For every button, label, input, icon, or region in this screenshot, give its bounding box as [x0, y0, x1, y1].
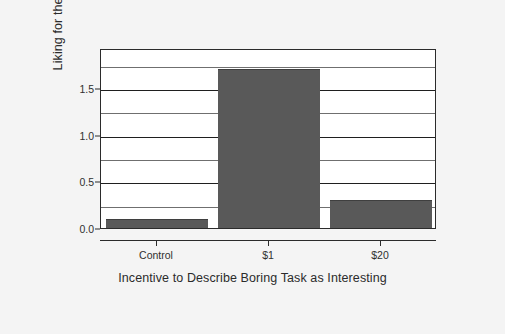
chart-figure: Liking for the Tasks 0.00.51.01.5 Contro… — [0, 0, 505, 334]
x-tick-label: $20 — [371, 249, 389, 261]
x-tick-mark — [268, 241, 269, 246]
y-tick-mark — [95, 89, 100, 90]
x-tick-label: $1 — [262, 249, 274, 261]
y-tick-mark — [95, 135, 100, 136]
y-tick-label: 1.0 — [60, 130, 94, 142]
y-tick-label: 0.5 — [60, 176, 94, 188]
bar — [330, 200, 431, 228]
x-axis-title: Incentive to Describe Boring Task as Int… — [0, 271, 505, 285]
plot-inner — [101, 50, 435, 228]
bar — [218, 69, 319, 228]
x-tick-mark — [380, 241, 381, 246]
y-tick-label: 1.5 — [60, 83, 94, 95]
y-tick-mark — [95, 182, 100, 183]
plot-area — [100, 49, 436, 229]
gridline-minor — [101, 67, 435, 68]
x-tick-label: Control — [139, 249, 173, 261]
x-tick-mark — [156, 241, 157, 246]
y-tick-mark — [95, 229, 100, 230]
y-tick-label: 0.0 — [60, 223, 94, 235]
bar — [106, 219, 207, 228]
